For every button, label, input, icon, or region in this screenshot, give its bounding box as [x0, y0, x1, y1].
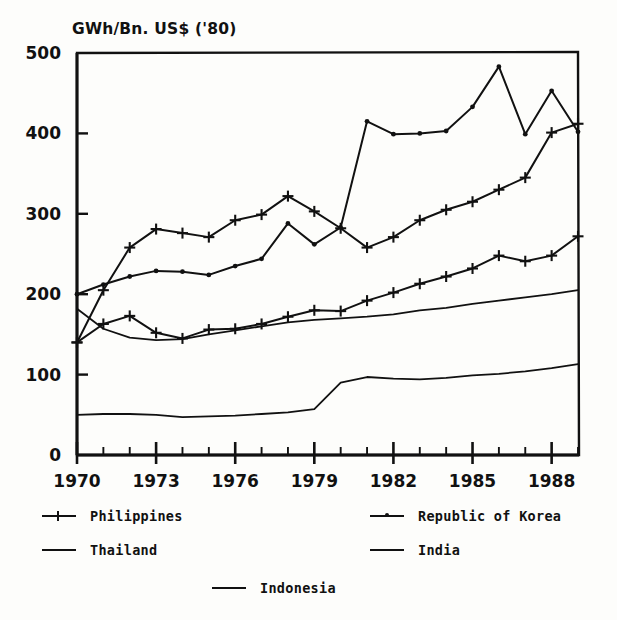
- tick-labels-layer: 0100200300400500197019731976197919821985…: [26, 43, 576, 491]
- series-thailand: [72, 231, 584, 348]
- x-tick-label: 1979: [291, 471, 338, 491]
- dot-marker: [180, 269, 185, 274]
- dot-marker: [286, 221, 291, 226]
- dot-marker: [576, 129, 581, 134]
- legend-line-icon-indonesia: [212, 587, 246, 589]
- chart-page: GWh/Bn. US$ ('80) 0100200300400500197019…: [0, 0, 617, 620]
- x-tick-label: 1982: [370, 471, 417, 491]
- y-tick-label: 0: [49, 445, 61, 465]
- series-philippines: [72, 118, 584, 348]
- series-line: [77, 236, 578, 342]
- dot-marker: [549, 88, 554, 93]
- legend-line-icon-thailand: [42, 549, 76, 551]
- legend-item-indonesia: Indonesia: [212, 580, 336, 596]
- series-indonesia: [77, 364, 578, 417]
- x-tick-label: 1985: [449, 471, 496, 491]
- legend-item-philippines: Philippines: [42, 508, 183, 524]
- dot-marker: [523, 132, 528, 137]
- dot-marker: [206, 273, 211, 278]
- y-tick-label: 200: [26, 284, 62, 304]
- series-line: [77, 67, 578, 295]
- x-tick-label: 1988: [528, 471, 575, 491]
- y-tick-label: 500: [26, 43, 62, 63]
- dot-marker: [75, 292, 80, 297]
- dot-marker: [391, 132, 396, 137]
- y-tick-label: 400: [26, 123, 62, 143]
- axes-layer: [77, 52, 579, 464]
- dot-marker: [127, 274, 132, 279]
- x-tick-label: 1976: [212, 471, 259, 491]
- dot-marker: [417, 131, 422, 136]
- legend-label-republic-of-korea: Republic of Korea: [418, 508, 561, 524]
- dot-marker: [444, 129, 449, 134]
- dot-marker: [154, 268, 159, 273]
- legend-label-thailand: Thailand: [90, 542, 157, 558]
- legend-item-india: India: [370, 542, 460, 558]
- line-chart-svg: 0100200300400500197019731976197919821985…: [0, 0, 617, 500]
- legend-line-icon-republic-of-korea: [370, 515, 404, 517]
- dot-marker: [470, 104, 475, 109]
- x-tick-label: 1970: [53, 471, 100, 491]
- dot-marker: [312, 242, 317, 247]
- dot-marker: [338, 225, 343, 230]
- dot-marker: [101, 282, 106, 287]
- series-line: [77, 124, 578, 343]
- y-tick-label: 100: [26, 365, 62, 385]
- plot-area: 0100200300400500197019731976197919821985…: [0, 0, 617, 500]
- dot-marker: [259, 256, 264, 261]
- legend-line-icon-india: [370, 549, 404, 551]
- series-line: [77, 364, 578, 417]
- y-tick-label: 300: [26, 204, 62, 224]
- series-layer: [72, 64, 584, 417]
- series-republic-of-korea: [75, 64, 581, 296]
- chart-legend: Philippines Thailand Republic of Korea I…: [0, 500, 617, 620]
- legend-label-india: India: [418, 542, 460, 558]
- legend-label-philippines: Philippines: [90, 508, 183, 524]
- legend-item-thailand: Thailand: [42, 542, 157, 558]
- dot-marker: [365, 119, 370, 124]
- legend-line-icon-philippines: [42, 515, 76, 517]
- x-tick-label: 1973: [132, 471, 179, 491]
- dot-marker: [233, 264, 238, 269]
- legend-item-republic-of-korea: Republic of Korea: [370, 508, 561, 524]
- legend-label-indonesia: Indonesia: [260, 580, 336, 596]
- dot-marker: [496, 64, 501, 69]
